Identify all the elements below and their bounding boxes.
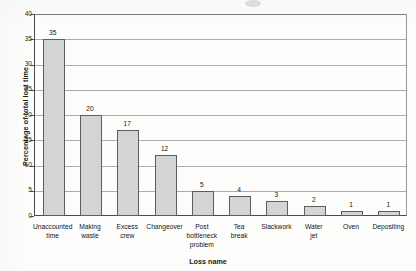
bar-value-label: 1: [336, 202, 366, 209]
x-category-label: Slackwork: [256, 222, 297, 231]
y-tick-label: 30: [0, 61, 32, 68]
bar-value-label: 12: [150, 146, 180, 153]
y-tick-label: 35: [0, 36, 32, 43]
gridline: [35, 39, 406, 40]
scan-artifact: [245, 0, 261, 7]
bar-value-label: 20: [75, 106, 105, 113]
bar-value-label: 17: [112, 121, 142, 128]
bar-value-label: 1: [373, 202, 403, 209]
y-tick-label: 10: [0, 162, 32, 169]
x-category-label: Excesscrew: [107, 222, 148, 240]
bar: [378, 211, 400, 216]
bar-value-label: 4: [224, 187, 254, 194]
x-category-label: Waterjet: [293, 222, 334, 240]
gridline: [35, 14, 406, 15]
y-tick-label: 5: [0, 187, 32, 194]
y-tick-label: 40: [0, 11, 32, 18]
bar-value-label: 2: [299, 197, 329, 204]
x-category-label: Unaccountedtime: [32, 222, 73, 240]
bar: [192, 191, 214, 216]
x-category-label: Depositing: [368, 222, 409, 231]
bar: [229, 196, 251, 216]
y-tick-label: 15: [0, 137, 32, 144]
chart-page: Percentage of total lost time 4035302520…: [0, 0, 416, 271]
x-category-label: Makingwaste: [69, 222, 110, 240]
y-tick-label: 0: [0, 213, 32, 220]
gridline: [35, 65, 406, 66]
bar: [266, 201, 288, 216]
x-category-label: Teabreak: [219, 222, 260, 240]
bar-value-label: 35: [38, 30, 68, 37]
y-tick-label: 25: [0, 86, 32, 93]
y-tick-mark: [30, 216, 34, 217]
x-category-label: Oven: [330, 222, 371, 231]
x-category-label: Postbottleneckproblem: [181, 222, 222, 249]
plot-area: [34, 14, 407, 216]
x-category-label: Changeover: [144, 222, 185, 231]
bar: [43, 39, 65, 216]
bar: [80, 115, 102, 216]
bar-value-label: 3: [261, 192, 291, 199]
bar: [155, 155, 177, 216]
bar: [341, 211, 363, 216]
bar: [304, 206, 326, 216]
y-tick-label: 20: [0, 112, 32, 119]
bar: [117, 130, 139, 216]
x-axis-title: Loss name: [0, 257, 416, 266]
bar-value-label: 5: [187, 182, 217, 189]
gridline: [35, 90, 406, 91]
